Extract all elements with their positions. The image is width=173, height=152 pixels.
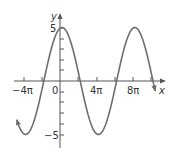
tick-label-neg5: −5 [44, 130, 59, 141]
curve-right-arrow-icon [152, 85, 157, 92]
tick-label-neg4pi: −4π [12, 85, 33, 96]
tick-label-8pi: 8π [127, 85, 139, 96]
tick-label-4pi: 4π [90, 85, 102, 96]
x-axis-arrow-icon [160, 79, 166, 84]
curve-left-arrow-icon [16, 119, 21, 126]
x-axis-label: x [158, 85, 165, 96]
cosine-graph: y x −4π 0 4π 8π 5 −5 [0, 0, 173, 152]
x-ticks [24, 77, 151, 81]
tick-label-0: 0 [52, 85, 58, 96]
y-axis-label: y [50, 11, 58, 22]
y-axis-arrow-icon [58, 13, 63, 19]
tick-label-5: 5 [50, 23, 56, 34]
